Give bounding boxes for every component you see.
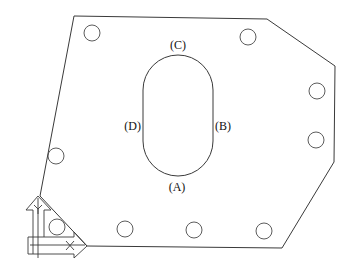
label-c: (C) bbox=[170, 38, 186, 52]
label-b: (B) bbox=[215, 119, 231, 133]
hole bbox=[240, 29, 256, 45]
hole bbox=[117, 221, 133, 237]
hole bbox=[49, 219, 65, 235]
bolt-holes bbox=[48, 25, 325, 239]
label-d: (D) bbox=[124, 119, 141, 133]
hole bbox=[308, 132, 324, 148]
plate-outline bbox=[40, 16, 335, 248]
x-glyph-icon bbox=[66, 241, 74, 250]
hole bbox=[84, 25, 100, 41]
hole bbox=[309, 83, 325, 99]
hole bbox=[186, 222, 202, 238]
slot-outline bbox=[143, 55, 213, 176]
coordinate-axes-icon bbox=[26, 196, 87, 258]
hole bbox=[48, 148, 64, 164]
label-a: (A) bbox=[169, 180, 186, 194]
diagram-canvas: (C) (B) (D) (A) bbox=[0, 0, 355, 278]
hole bbox=[256, 223, 272, 239]
